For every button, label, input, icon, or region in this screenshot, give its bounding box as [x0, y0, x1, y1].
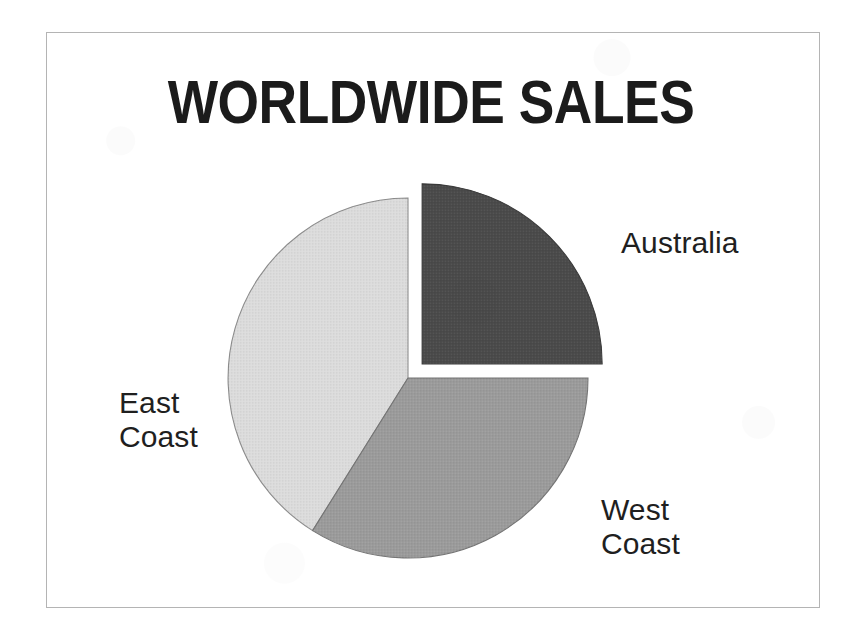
slice-label-east-coast: East Coast	[119, 386, 198, 453]
slice-label-australia: Australia	[621, 226, 739, 260]
page-title: WORLDWIDE SALES	[60, 71, 801, 133]
slice-label-west-coast: West Coast	[601, 493, 680, 560]
pie-slice-australia[interactable]	[422, 184, 602, 364]
figure-canvas: WORLDWIDE SALES Australia West Coast	[0, 0, 862, 640]
